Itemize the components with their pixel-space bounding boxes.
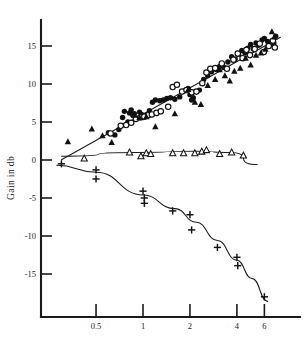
- data-point-filled-triangle: [247, 62, 253, 68]
- data-point-filled-circle: [225, 59, 230, 64]
- data-point-plus: [139, 188, 146, 195]
- data-point-filled-triangle: [152, 123, 158, 129]
- data-point-open-circle: [194, 89, 199, 94]
- chart-figure: 151050-5-10-15 0.51246 Gain in db: [0, 0, 306, 341]
- y-tick-group: 151050-5-10-15: [25, 41, 52, 279]
- data-point-plus: [188, 226, 195, 233]
- data-point-filled-triangle: [89, 125, 95, 131]
- data-point-filled-triangle: [222, 72, 228, 78]
- series-open-circle-series: [108, 38, 278, 136]
- data-point-open-circle: [219, 61, 224, 66]
- series-open-triangle-series: [81, 147, 246, 161]
- data-point-open-circle: [128, 120, 133, 125]
- y-tick-label: -15: [25, 269, 36, 279]
- x-tick-label: 0.5: [91, 321, 102, 331]
- data-point-filled-circle: [172, 97, 177, 102]
- data-point-open-triangle: [180, 150, 186, 156]
- data-point-open-triangle: [170, 150, 176, 156]
- y-tick-label: 5: [32, 117, 36, 127]
- data-point-filled-circle: [120, 115, 125, 120]
- data-point-open-triangle: [203, 147, 209, 153]
- data-marker-group: [58, 28, 279, 300]
- data-point-filled-circle: [248, 42, 253, 47]
- data-point-filled-triangle: [231, 68, 237, 74]
- y-tick-label: -10: [25, 231, 36, 241]
- data-point-open-circle: [257, 41, 262, 46]
- data-point-open-circle: [266, 43, 271, 48]
- data-point-open-circle: [212, 65, 217, 70]
- data-point-filled-triangle: [108, 139, 114, 145]
- data-point-plus: [141, 200, 148, 207]
- data-point-plus: [214, 244, 221, 251]
- data-point-filled-triangle: [227, 78, 233, 84]
- y-tick-label: 15: [28, 41, 37, 51]
- data-point-open-circle: [108, 131, 113, 136]
- data-point-open-circle: [244, 47, 249, 52]
- data-point-plus: [58, 160, 65, 167]
- data-point-filled-triangle: [269, 28, 275, 34]
- data-point-open-circle: [200, 81, 205, 86]
- y-tick-label: 0: [32, 155, 36, 165]
- data-point-open-triangle: [192, 150, 198, 156]
- x-tick-label: 2: [188, 321, 192, 331]
- data-point-filled-triangle: [172, 110, 178, 116]
- data-point-open-circle: [235, 51, 240, 56]
- x-tick-label: 1: [141, 321, 145, 331]
- data-point-filled-circle: [122, 109, 127, 114]
- data-point-open-triangle: [217, 151, 223, 157]
- middle-flat-curve: [61, 151, 257, 164]
- fit-curve-group: [57, 37, 281, 301]
- y-axis-label: Gain in db: [6, 156, 16, 200]
- series-plus-series: [58, 160, 268, 300]
- data-point-filled-triangle: [198, 101, 204, 107]
- data-point-open-circle: [174, 82, 179, 87]
- data-point-open-circle: [252, 46, 257, 51]
- data-point-open-circle: [165, 104, 170, 109]
- data-point-plus: [234, 262, 241, 269]
- y-tick-label: -5: [29, 193, 36, 203]
- data-point-filled-triangle: [237, 65, 243, 71]
- data-point-open-circle: [224, 66, 229, 71]
- x-tick-label: 6: [262, 321, 266, 331]
- data-point-open-circle: [158, 109, 163, 114]
- y-tick-label: 10: [28, 79, 37, 89]
- data-point-open-circle: [118, 123, 123, 128]
- data-point-filled-circle: [177, 94, 182, 99]
- lower-descending-curve: [57, 165, 268, 301]
- x-tick-label: 4: [235, 321, 240, 331]
- data-point-filled-triangle: [65, 138, 71, 144]
- data-point-plus: [92, 175, 99, 182]
- data-point-open-circle: [272, 45, 277, 50]
- data-point-open-circle: [231, 57, 236, 62]
- data-point-filled-triangle: [212, 76, 218, 82]
- scatter-plot-svg: 151050-5-10-15 0.51246 Gain in db: [0, 0, 306, 341]
- data-point-open-circle: [247, 52, 252, 57]
